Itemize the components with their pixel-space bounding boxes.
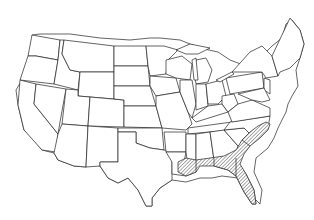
state-north-dakota (114, 46, 148, 66)
us-map (0, 0, 314, 220)
state-arizona (54, 124, 88, 167)
state-south-dakota (114, 66, 150, 86)
state-new-england (272, 18, 304, 76)
state-wyoming (78, 72, 114, 99)
state-new-mexico (86, 126, 118, 167)
state-colorado (88, 97, 124, 127)
state-montana (62, 40, 114, 72)
state-oregon (20, 56, 58, 84)
state-kansas (124, 106, 162, 128)
state-arkansas (164, 132, 186, 152)
